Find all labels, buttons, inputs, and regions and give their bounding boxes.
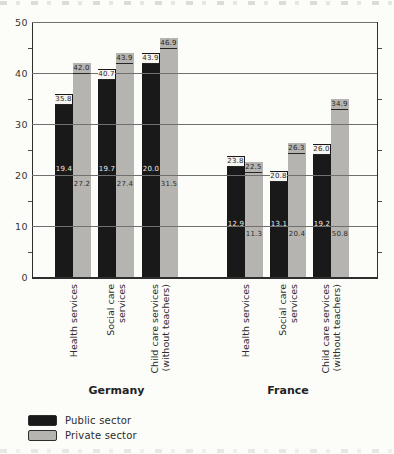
bar-chart-plot-area: 0102030405035.819.442.027.2Health servic… — [0, 0, 394, 454]
bar-value-label: 26.3 — [288, 144, 305, 154]
bar-inner-label: 13.1 — [268, 220, 290, 228]
bar-value-label: 22.5 — [245, 163, 262, 173]
category-label: Social careservices — [277, 284, 299, 376]
legend-swatch-public — [28, 415, 57, 426]
y-axis-left — [32, 22, 33, 277]
figure-scan: 0102030405035.819.442.027.2Health servic… — [0, 0, 394, 454]
bar-value-label: 43.9 — [116, 54, 133, 64]
minor-tick-right — [378, 48, 382, 49]
minor-tick-right — [378, 201, 382, 202]
category-label-line: (without teachers) — [160, 284, 171, 376]
bar-value-label: 40.7 — [98, 70, 115, 80]
legend-label: Public sector — [65, 415, 131, 426]
bar-inner-label: 31.5 — [158, 180, 180, 188]
category-label: Health services — [68, 284, 79, 376]
y-tick-label: 0 — [6, 273, 28, 282]
bar-inner-label: 12.9 — [225, 220, 247, 228]
y-tick-label: 50 — [6, 18, 28, 27]
category-label-line: services — [116, 284, 127, 376]
bar-value-label: 26.0 — [313, 145, 330, 155]
group-label-germany: Germany — [72, 384, 162, 397]
minor-tick-right — [378, 252, 382, 253]
minor-tick-left — [28, 252, 32, 253]
minor-tick-left — [28, 99, 32, 100]
bar-inner-label: 27.4 — [114, 180, 136, 188]
bar-inner-label: 20.0 — [140, 165, 162, 173]
minor-tick-left — [28, 150, 32, 151]
minor-tick-right — [378, 150, 382, 151]
category-label: Health services — [240, 284, 251, 376]
bar-value-label: 34.9 — [331, 100, 348, 110]
y-tick-label: 40 — [6, 69, 28, 78]
category-label-line: Health services — [240, 284, 251, 376]
bar-private-sector — [288, 143, 306, 277]
bar-inner-label: 20.4 — [286, 230, 308, 238]
bar-private-sector — [116, 53, 134, 277]
legend-label: Private sector — [65, 430, 137, 441]
minor-tick-right — [378, 99, 382, 100]
minor-tick-left — [28, 201, 32, 202]
category-label: Child care services(without teachers) — [149, 284, 171, 376]
y-tick-label: 10 — [6, 222, 28, 231]
category-label-line: services — [288, 284, 299, 376]
bar-value-label: 42.0 — [73, 64, 90, 74]
bar-inner-label: 19.7 — [96, 165, 118, 173]
bar-inner-label: 27.2 — [71, 180, 93, 188]
grid-line — [32, 124, 377, 125]
bar-public-sector — [313, 144, 331, 277]
bar-private-sector — [245, 162, 263, 277]
bar-inner-label: 19.2 — [311, 220, 333, 228]
cropped-text-bottom — [0, 449, 394, 453]
bar-value-label: 20.8 — [270, 172, 287, 182]
legend-swatch-private — [28, 430, 57, 441]
category-label-line: (without teachers) — [331, 284, 342, 376]
legend-item-public-sector: Public sector — [28, 413, 137, 428]
bar-value-label: 23.8 — [227, 157, 244, 167]
minor-tick-left — [28, 48, 32, 49]
category-label-line: Child care services — [320, 284, 331, 376]
bar-public-sector — [227, 156, 245, 277]
category-label-line: Health services — [68, 284, 79, 376]
bar-private-sector — [73, 63, 91, 277]
grid-line — [32, 175, 377, 176]
grid-line — [32, 22, 377, 23]
bar-public-sector — [98, 69, 116, 277]
y-tick-label: 30 — [6, 120, 28, 129]
bar-value-label: 35.8 — [55, 95, 72, 105]
bar-value-label: 46.9 — [160, 39, 177, 49]
x-axis-baseline — [32, 277, 378, 279]
bar-private-sector — [331, 99, 349, 277]
legend: Public sectorPrivate sector — [28, 413, 137, 443]
category-label-line: Social care — [277, 284, 288, 376]
group-label-france: France — [243, 384, 333, 397]
bar-inner-label: 19.4 — [53, 165, 75, 173]
y-tick-label: 20 — [6, 171, 28, 180]
bar-inner-label: 11.3 — [243, 230, 265, 238]
category-label-line: Social care — [105, 284, 116, 376]
legend-item-private-sector: Private sector — [28, 428, 137, 443]
bar-inner-label: 50.8 — [329, 230, 351, 238]
category-label: Social careservices — [105, 284, 127, 376]
bar-value-label: 43.9 — [142, 54, 159, 64]
category-label: Child care services(without teachers) — [320, 284, 342, 376]
category-label-line: Child care services — [149, 284, 160, 376]
